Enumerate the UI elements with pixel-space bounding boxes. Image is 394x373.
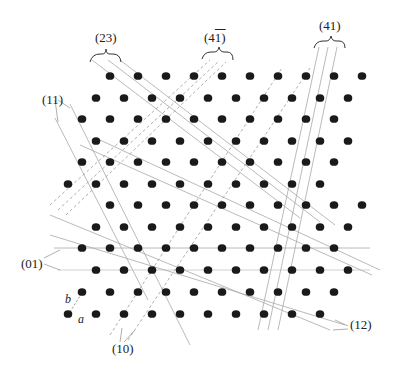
lattice-point — [330, 158, 339, 166]
label-41bar-rest: 1) — [215, 30, 226, 45]
lattice-point — [148, 310, 157, 318]
lattice-point — [232, 223, 241, 231]
lattice-point — [92, 223, 101, 231]
lattice-point — [120, 266, 129, 274]
lattice-point — [204, 137, 213, 145]
lattice-point — [330, 244, 339, 252]
lattice-point — [204, 266, 213, 274]
lattice-point — [106, 201, 115, 209]
lattice-point — [120, 94, 129, 102]
lattice-point — [218, 288, 227, 296]
lattice-point — [64, 180, 73, 188]
lattice-point — [78, 288, 87, 296]
lattice-point — [148, 223, 157, 231]
brace-41bar — [202, 47, 233, 60]
lattice-point — [106, 158, 115, 166]
lattice-point — [190, 244, 199, 252]
lattice-point — [218, 72, 227, 80]
lattice-point — [190, 158, 199, 166]
lattice-point — [162, 288, 171, 296]
lattice-point — [316, 137, 325, 145]
label-basis-b: b — [65, 293, 71, 305]
lattice-point — [78, 158, 87, 166]
lattice-diagram: (23) (41) (41) (11) (01) (10) (12) b a — [0, 0, 394, 373]
lattice-point — [204, 94, 213, 102]
family-41-lines — [258, 47, 337, 330]
lattice-point — [92, 137, 101, 145]
family-01-lines — [54, 248, 370, 270]
lattice-point — [260, 180, 269, 188]
lattice-point — [316, 266, 325, 274]
lattice-point — [344, 94, 353, 102]
lattice-point — [344, 137, 353, 145]
lattice-point — [92, 310, 101, 318]
lattice-point — [218, 201, 227, 209]
lattice-point — [120, 223, 129, 231]
lattice-point — [302, 244, 311, 252]
arrow-10-a — [120, 328, 122, 342]
lattice-points — [64, 72, 367, 318]
brace-23 — [90, 49, 121, 62]
label-12: (12) — [350, 318, 372, 331]
lattice-point — [106, 72, 115, 80]
lattice-point — [78, 115, 87, 123]
label-23: (23) — [95, 31, 117, 44]
lattice-point — [274, 244, 283, 252]
lattice-point — [134, 288, 143, 296]
lattice-point — [190, 288, 199, 296]
family-12-lines — [50, 140, 380, 330]
lattice-point — [316, 180, 325, 188]
lattice-point — [274, 158, 283, 166]
lattice-point — [330, 72, 339, 80]
lattice-point — [92, 266, 101, 274]
lattice-point — [148, 137, 157, 145]
lattice-point — [232, 180, 241, 188]
lattice-point — [288, 310, 297, 318]
lattice-point — [330, 201, 339, 209]
label-01: (01) — [21, 257, 43, 270]
lattice-point — [134, 244, 143, 252]
lattice-point — [218, 158, 227, 166]
lattice-point — [232, 310, 241, 318]
lattice-point — [190, 201, 199, 209]
lattice-point — [358, 201, 367, 209]
lattice-point — [260, 266, 269, 274]
label-10: (10) — [112, 342, 134, 355]
lattice-point — [162, 244, 171, 252]
lattice-point — [204, 310, 213, 318]
lattice-point — [288, 223, 297, 231]
lattice-point — [330, 288, 339, 296]
label-41: (41) — [319, 19, 341, 32]
lattice-point — [176, 180, 185, 188]
lattice-point — [274, 115, 283, 123]
lattice-point — [232, 266, 241, 274]
label-11: (11) — [42, 93, 63, 106]
lattice-point — [106, 288, 115, 296]
lattice-point — [344, 266, 353, 274]
lattice-point — [246, 115, 255, 123]
lattice-point — [288, 180, 297, 188]
basis-b-vector — [70, 296, 80, 312]
lattice-point — [148, 180, 157, 188]
label-41bar: (41) — [204, 31, 226, 44]
lattice-point — [288, 266, 297, 274]
lattice-point — [316, 223, 325, 231]
lattice-point — [288, 94, 297, 102]
lattice-point — [316, 310, 325, 318]
lattice-point — [64, 310, 73, 318]
lattice-point — [92, 180, 101, 188]
lattice-point — [302, 115, 311, 123]
lattice-point — [162, 115, 171, 123]
lattice-point — [302, 201, 311, 209]
lattice-point — [176, 223, 185, 231]
lattice-point — [288, 137, 297, 145]
brace-41 — [314, 36, 345, 48]
lattice-point — [120, 180, 129, 188]
lattice-point — [344, 223, 353, 231]
lattice-point — [134, 72, 143, 80]
lattice-point — [204, 223, 213, 231]
lattice-point — [162, 158, 171, 166]
lattice-point — [246, 158, 255, 166]
lattice-point — [302, 72, 311, 80]
lattice-point — [120, 310, 129, 318]
